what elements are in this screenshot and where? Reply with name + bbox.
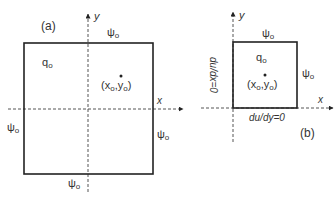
panel-b-left-boundary-condition: du/dx=0	[208, 57, 218, 93]
panel-a-x-axis-label: x	[157, 96, 162, 106]
panel-b-bottom-boundary-condition: du/dy=0	[249, 113, 285, 123]
panel-a-right-boundary: ψo	[157, 129, 169, 142]
panel-b-right-boundary: ψo	[302, 68, 314, 81]
panel-a-y-axis-label: y	[94, 11, 100, 22]
panel-a-label: (a)	[41, 20, 56, 32]
panel-b-y-axis-label: y	[239, 10, 245, 21]
panel-a-top-boundary: ψo	[107, 27, 119, 40]
panel-b-source-strength: qo	[256, 52, 267, 65]
panel-b-label: (b)	[300, 127, 315, 139]
panel-a-left-boundary: ψo	[7, 122, 19, 135]
panel-b-top-boundary: ψo	[262, 28, 274, 41]
panel-a-bottom-boundary: ψo	[68, 178, 80, 191]
panel-b-source-location: (xo,yo)	[247, 79, 277, 92]
panel-a-source-location: (xo,yo)	[101, 80, 131, 93]
panel-b-x-axis-label: x	[318, 95, 323, 105]
panel-a-source-strength: qo	[42, 57, 53, 70]
panel-a-source-point	[120, 75, 123, 78]
panel-b-source-point	[264, 74, 267, 77]
